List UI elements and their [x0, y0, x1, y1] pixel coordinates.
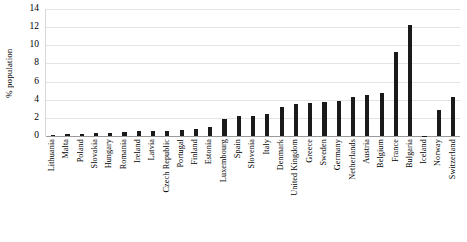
bar: [222, 119, 226, 136]
bar-slot: [232, 9, 246, 136]
bar: [108, 133, 112, 136]
bar-slot: [132, 9, 146, 136]
x-axis-label-poland: Poland: [77, 139, 85, 162]
bar-slot: [289, 9, 303, 136]
x-axis-label-luxembourg: Luxembourg: [220, 139, 228, 182]
category-slot: Spain: [231, 139, 245, 239]
bar-slot: [360, 9, 374, 136]
category-slot: Belgium: [374, 139, 388, 239]
y-axis-tick-4: 4: [34, 95, 39, 105]
bar-slot: [403, 9, 417, 136]
y-axis-tick-12: 12: [30, 22, 40, 32]
bar-slot: [103, 9, 117, 136]
gridline-0: [46, 136, 460, 137]
bar: [151, 131, 155, 136]
category-slot: Netherlands: [346, 139, 360, 239]
bar-slot: [346, 9, 360, 136]
bar: [365, 95, 369, 136]
y-axis-tick-6: 6: [34, 77, 39, 87]
bar: [237, 116, 241, 136]
x-axis-label-bulgaria: Bulgaria: [406, 139, 414, 168]
x-axis-label-ireland: Ireland: [134, 139, 142, 163]
x-axis-label-lithuania: Lithuania: [48, 139, 56, 171]
category-slot: Denmark: [274, 139, 288, 239]
x-axis-label-france: France: [392, 139, 400, 162]
category-slot: Portugal: [174, 139, 188, 239]
category-slot: Sweden: [317, 139, 331, 239]
category-slot: Luxembourg: [217, 139, 231, 239]
bar-slot: [160, 9, 174, 136]
x-axis-label-greece: Greece: [306, 139, 314, 163]
x-axis-label-austria: Austria: [363, 139, 371, 164]
category-slot: France: [389, 139, 403, 239]
category-slot: Czech Republic: [160, 139, 174, 239]
y-axis-tick-14: 14: [30, 4, 40, 14]
category-slot: Austria: [360, 139, 374, 239]
bar: [294, 104, 298, 136]
bar: [408, 25, 412, 136]
x-axis-label-united-kingdom: United Kingdom: [291, 139, 299, 196]
x-axis-label-iceland: Iceland: [420, 139, 428, 164]
bar: [80, 134, 84, 136]
bar-slot: [89, 9, 103, 136]
bar: [380, 93, 384, 136]
bar-slot: [117, 9, 131, 136]
x-axis-label-sweden: Sweden: [320, 139, 328, 166]
category-slot: Slovakia: [88, 139, 102, 239]
bar-slot: [203, 9, 217, 136]
category-slot: Switzerland: [446, 139, 460, 239]
bar: [122, 132, 126, 136]
bar-series: [46, 9, 460, 136]
bar-slot: [417, 9, 431, 136]
x-axis-label-spain: Spain: [234, 139, 242, 158]
bar-slot: [217, 9, 231, 136]
bar-slot: [432, 9, 446, 136]
category-slot: Germany: [331, 139, 345, 239]
bar-slot: [46, 9, 60, 136]
bar: [451, 97, 455, 136]
category-slot: Slovenia: [245, 139, 259, 239]
category-slot: Latvia: [145, 139, 159, 239]
category-slot: Lithuania: [45, 139, 59, 239]
bar-slot: [303, 9, 317, 136]
category-slot: Romania: [117, 139, 131, 239]
bar-slot: [175, 9, 189, 136]
x-axis-label-switzerland: Switzerland: [449, 139, 457, 179]
bar: [308, 103, 312, 136]
bar: [51, 135, 55, 136]
bar: [351, 97, 355, 136]
x-axis-label-malta: Malta: [62, 139, 70, 159]
x-axis-category-labels: LithuaniaMaltaPolandSlovakiaHungaryRoman…: [45, 139, 460, 239]
bar: [65, 134, 69, 136]
plot-area: [45, 9, 460, 136]
category-slot: United Kingdom: [288, 139, 302, 239]
x-axis-label-slovakia: Slovakia: [91, 139, 99, 168]
x-axis-label-czech-republic: Czech Republic: [163, 139, 171, 192]
bar: [208, 127, 212, 136]
category-slot: Greece: [303, 139, 317, 239]
bar-chart: % population 02468101214 LithuaniaMaltaP…: [0, 0, 467, 242]
x-axis-label-netherlands: Netherlands: [349, 139, 357, 180]
y-axis-tick-2: 2: [34, 113, 39, 123]
bar-slot: [332, 9, 346, 136]
bar-slot: [317, 9, 331, 136]
x-axis-label-estonia: Estonia: [205, 139, 213, 164]
x-axis-label-germany: Germany: [334, 139, 342, 170]
category-slot: Hungary: [102, 139, 116, 239]
bar: [280, 107, 284, 136]
bar-slot: [246, 9, 260, 136]
x-axis-label-latvia: Latvia: [148, 139, 156, 161]
bar-slot: [260, 9, 274, 136]
x-axis-label-hungary: Hungary: [105, 139, 113, 168]
bar: [265, 114, 269, 136]
category-slot: Malta: [59, 139, 73, 239]
bar: [94, 133, 98, 136]
x-axis-label-portugal: Portugal: [177, 139, 185, 168]
x-axis-label-slovenia: Slovenia: [248, 139, 256, 168]
category-slot: Poland: [74, 139, 88, 239]
bar-slot: [275, 9, 289, 136]
bar: [337, 101, 341, 136]
x-axis-label-finland: Finland: [191, 139, 199, 165]
category-slot: Italy: [260, 139, 274, 239]
category-slot: Bulgaria: [403, 139, 417, 239]
